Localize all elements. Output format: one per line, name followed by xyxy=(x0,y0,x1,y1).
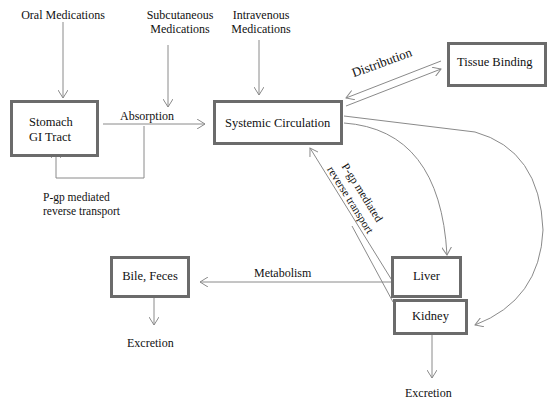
source-intravenous-line2: Medications xyxy=(222,22,300,36)
arrow-pgp-kidney xyxy=(352,226,393,302)
source-intravenous-line1: Intravenous xyxy=(222,8,300,22)
label-metabolism: Metabolism xyxy=(254,266,311,280)
source-subcutaneous-medications: Subcutaneous Medications xyxy=(132,8,228,36)
label-excretion-kidney: Excretion xyxy=(405,386,452,400)
systemic-circulation-label: Systemic Circulation xyxy=(225,116,330,130)
gi-tract-label: GI Tract xyxy=(29,130,96,145)
node-bile-feces: Bile, Feces xyxy=(110,256,190,298)
label-absorption: Absorption xyxy=(120,109,174,123)
stomach-label: Stomach xyxy=(29,115,96,130)
node-stomach-gi-tract: Stomach GI Tract xyxy=(10,100,99,157)
bile-feces-label: Bile, Feces xyxy=(122,269,178,283)
pgp-gi-line1: P-gp mediated xyxy=(43,190,120,204)
kidney-label: Kidney xyxy=(412,309,449,323)
source-subcutaneous-line2: Medications xyxy=(132,22,228,36)
liver-label: Liver xyxy=(413,269,440,283)
label-excretion-bile: Excretion xyxy=(127,336,174,350)
source-oral-medications: Oral Medications xyxy=(8,8,118,22)
source-intravenous-medications: Intravenous Medications xyxy=(222,8,300,36)
pgp-gi-line2: reverse transport xyxy=(43,204,120,218)
node-kidney: Kidney xyxy=(393,299,468,335)
node-tissue-binding: Tissue Binding xyxy=(447,42,547,87)
node-systemic-circulation: Systemic Circulation xyxy=(213,100,343,145)
source-subcutaneous-line1: Subcutaneous xyxy=(132,8,228,22)
node-liver: Liver xyxy=(391,256,462,298)
tissue-binding-label: Tissue Binding xyxy=(457,55,533,69)
source-oral-label: Oral Medications xyxy=(21,8,105,22)
label-pgp-gi: P-gp mediated reverse transport xyxy=(43,190,120,218)
